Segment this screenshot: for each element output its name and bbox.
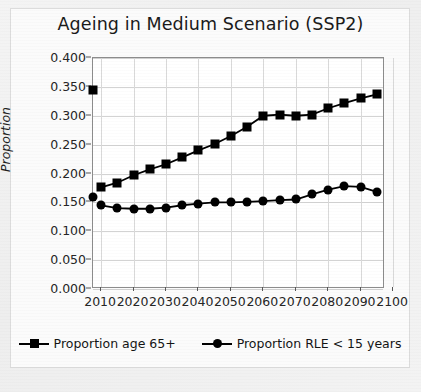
y-tick-mark <box>86 57 91 58</box>
y-tick-label: 0.250 <box>30 136 86 151</box>
data-point-circle <box>275 196 284 205</box>
chart-legend: Proportion age 65+ Proportion RLE < 15 y… <box>10 336 410 351</box>
vertical-gridline <box>393 58 394 287</box>
y-tick-label: 0.050 <box>30 252 86 267</box>
legend-item-proportion-age-65: Proportion age 65+ <box>19 336 176 351</box>
legend-label: Proportion age 65+ <box>54 336 176 351</box>
data-point-square <box>145 165 154 174</box>
y-axis-label: Proportion <box>0 107 13 172</box>
legend-label: Proportion RLE < 15 years <box>237 336 402 351</box>
data-point-circle <box>178 201 187 210</box>
data-point-circle <box>324 185 333 194</box>
x-tick-mark <box>327 287 328 291</box>
x-tick-mark <box>230 287 231 291</box>
data-point-circle <box>243 197 252 206</box>
data-point-square <box>291 111 300 120</box>
x-tick-mark <box>360 287 361 291</box>
x-tick-label: 2030 <box>149 294 181 309</box>
y-tick-mark <box>86 143 91 144</box>
data-markers <box>93 58 383 287</box>
legend-item-proportion-rle-under-15: Proportion RLE < 15 years <box>202 336 402 351</box>
y-tick-mark <box>86 259 91 260</box>
data-point-square <box>226 131 235 140</box>
data-point-circle <box>308 190 317 199</box>
circle-marker-icon <box>202 338 232 349</box>
square-marker-icon <box>19 338 49 349</box>
data-point-circle <box>113 204 122 213</box>
chart-figure: Ageing in Medium Scenario (SSP2) Proport… <box>0 0 421 392</box>
y-tick-mark <box>86 201 91 202</box>
data-point-square <box>162 160 171 169</box>
x-tick-mark <box>197 287 198 291</box>
x-tick-label: 2100 <box>376 294 408 309</box>
y-tick-mark <box>86 230 91 231</box>
data-point-square <box>372 90 381 99</box>
x-tick-label: 2020 <box>117 294 149 309</box>
y-tick-label: 0.000 <box>30 281 86 296</box>
data-point-square <box>308 110 317 119</box>
x-tick-label: 2060 <box>246 294 278 309</box>
data-point-square <box>356 94 365 103</box>
data-point-circle <box>340 182 349 191</box>
data-point-square <box>324 104 333 113</box>
data-point-square <box>210 140 219 149</box>
y-tick-mark <box>86 114 91 115</box>
y-tick-mark <box>86 172 91 173</box>
data-point-circle <box>356 182 365 191</box>
y-tick-label: 0.150 <box>30 194 86 209</box>
data-point-square <box>275 110 284 119</box>
data-point-circle <box>129 204 138 213</box>
x-tick-label: 2070 <box>279 294 311 309</box>
x-tick-mark <box>100 287 101 291</box>
data-point-square <box>243 122 252 131</box>
x-tick-mark <box>133 287 134 291</box>
x-tick-mark <box>165 287 166 291</box>
data-point-circle <box>194 199 203 208</box>
data-point-circle <box>89 192 98 201</box>
y-tick-label: 0.300 <box>30 107 86 122</box>
x-tick-label: 2010 <box>84 294 116 309</box>
data-point-circle <box>210 198 219 207</box>
x-tick-label: 2080 <box>311 294 343 309</box>
x-tick-mark <box>295 287 296 291</box>
y-tick-mark <box>86 288 91 289</box>
y-axis-ticks: 0.0000.0500.1000.1500.2000.2500.3000.350… <box>28 57 86 288</box>
plot-area <box>92 57 384 288</box>
data-point-square <box>89 86 98 95</box>
data-point-square <box>129 171 138 180</box>
y-tick-label: 0.100 <box>30 223 86 238</box>
data-point-square <box>194 146 203 155</box>
data-point-circle <box>97 201 106 210</box>
data-point-circle <box>145 204 154 213</box>
data-point-circle <box>291 195 300 204</box>
data-point-square <box>178 153 187 162</box>
x-tick-mark <box>262 287 263 291</box>
x-tick-mark <box>392 287 393 291</box>
data-point-square <box>340 99 349 108</box>
data-point-square <box>259 111 268 120</box>
y-tick-label: 0.200 <box>30 165 86 180</box>
chart-title: Ageing in Medium Scenario (SSP2) <box>0 14 421 34</box>
x-tick-label: 2050 <box>214 294 246 309</box>
x-tick-label: 2090 <box>344 294 376 309</box>
x-axis-ticks: 2010202020302040205020602070208020902100 <box>92 291 384 311</box>
data-point-circle <box>162 203 171 212</box>
data-point-square <box>97 183 106 192</box>
y-tick-label: 0.400 <box>30 50 86 65</box>
data-point-circle <box>259 197 268 206</box>
y-tick-label: 0.350 <box>30 78 86 93</box>
horizontal-gridline <box>93 289 383 290</box>
data-point-square <box>113 178 122 187</box>
data-point-circle <box>226 198 235 207</box>
x-tick-label: 2040 <box>182 294 214 309</box>
data-point-circle <box>372 187 381 196</box>
